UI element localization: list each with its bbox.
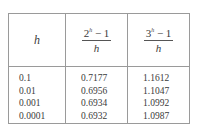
cell: 1.1612 — [143, 72, 169, 85]
fraction-denominator: h — [156, 41, 162, 54]
cell: 1.0992 — [143, 97, 169, 110]
cell: 0.6932 — [81, 110, 107, 123]
fraction-numerator: 3h − 1 — [144, 27, 174, 41]
column-h: 0.1 0.01 0.001 0.0001 — [19, 72, 45, 122]
header-2h: 2h − 1 h — [66, 14, 127, 67]
cell: 0.1 — [19, 72, 45, 85]
cell: 0.001 — [19, 97, 45, 110]
column-3h: 1.1612 1.1047 1.0992 1.0987 — [143, 72, 169, 122]
header-h-label: h — [34, 33, 40, 48]
cell: 0.0001 — [19, 110, 45, 123]
cell: 0.6934 — [81, 97, 107, 110]
header-3h: 3h − 1 h — [128, 14, 189, 67]
cell: 0.01 — [19, 85, 45, 98]
cell: 0.6956 — [81, 85, 107, 98]
header-h: h — [9, 14, 65, 67]
fraction-denominator: h — [94, 41, 100, 54]
fraction-3h: 3h − 1 h — [144, 27, 174, 54]
column-2h: 0.7177 0.6956 0.6934 0.6932 — [81, 72, 107, 122]
cell: 0.7177 — [81, 72, 107, 85]
fraction-2h: 2h − 1 h — [82, 27, 112, 54]
cell: 1.1047 — [143, 85, 169, 98]
cell: 1.0987 — [143, 110, 169, 123]
data-table: h 2h − 1 h 3h − 1 h 0.1 0.01 0.001 0.000… — [8, 13, 190, 124]
fraction-numerator: 2h − 1 — [82, 27, 112, 41]
